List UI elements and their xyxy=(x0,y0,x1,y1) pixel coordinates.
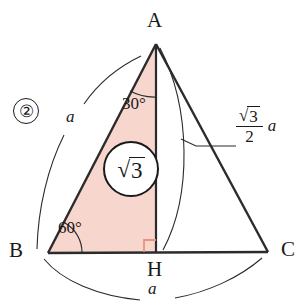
triangle-side-ac xyxy=(156,44,268,252)
radicand-value: 3 xyxy=(129,157,145,182)
item-number-label: ② xyxy=(19,101,34,122)
side-label-bc: a xyxy=(148,280,157,297)
item-number-badge: ② xyxy=(13,98,39,124)
measure-arc-bc-left xyxy=(44,259,140,300)
triangle-side-bc xyxy=(48,252,268,253)
altitude-length-label: √ 3 2 a xyxy=(236,106,276,146)
side-label-ab: a xyxy=(66,108,75,125)
altitude-coefficient: a xyxy=(268,116,277,136)
vertex-label-c: C xyxy=(281,239,295,260)
measure-arc-ah xyxy=(160,48,184,250)
fraction-sqrt3-over-2: √ 3 2 xyxy=(236,106,263,146)
angle-label-30: 30° xyxy=(122,95,146,112)
sqrt3-expression: √ 3 xyxy=(117,157,144,182)
numerator-sqrt3: √ 3 xyxy=(239,106,260,125)
geometry-figure: ② A B C H 30° 60° a a √ 3 √ 3 2 a xyxy=(0,0,303,307)
vertex-label-h: H xyxy=(147,259,162,280)
fraction-numerator: √ 3 xyxy=(236,106,263,126)
measure-arc-bc-right xyxy=(175,258,262,298)
radical-sign-icon: √ xyxy=(239,107,248,124)
vertex-label-a: A xyxy=(147,10,162,31)
vertex-label-b: B xyxy=(9,240,23,261)
numerator-radicand: 3 xyxy=(247,106,260,125)
fraction-denominator: 2 xyxy=(236,126,263,146)
radical-sign-icon: √ xyxy=(117,158,130,181)
angle-label-60: 60° xyxy=(58,219,82,236)
area-badge-sqrt3: √ 3 xyxy=(103,141,159,197)
